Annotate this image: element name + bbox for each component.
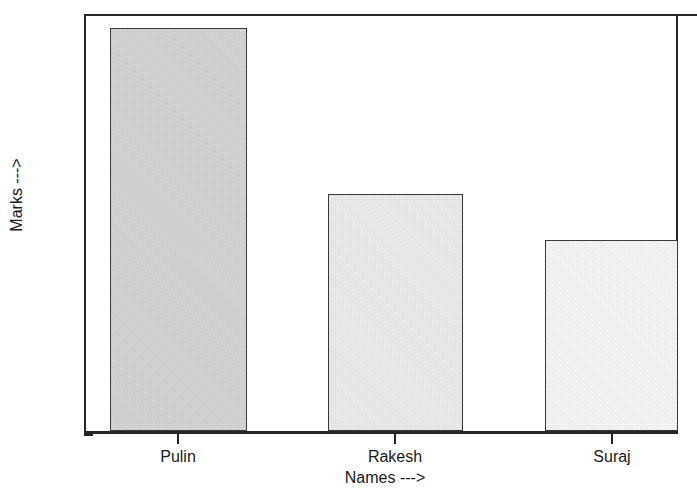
x-tick-label-suraj: Suraj — [532, 449, 692, 465]
bar-texture — [546, 241, 677, 430]
x-tick-label-pulin: Pulin — [98, 449, 258, 465]
top-spine-extension — [676, 14, 697, 16]
x-tick-suraj — [611, 434, 613, 444]
plot-area — [84, 14, 678, 434]
bar-chart-figure: 100 80 60 40 20 0 Pulin Rakesh Suraj Nam… — [0, 0, 697, 494]
x-tick-rakesh — [394, 434, 396, 444]
bar-pulin — [110, 28, 247, 431]
bar-rakesh — [328, 194, 463, 431]
bar-suraj — [545, 240, 678, 431]
bar-texture — [329, 195, 462, 430]
x-tick-label-rakesh: Rakesh — [315, 449, 475, 465]
x-axis-title: Names ---> — [285, 470, 485, 486]
y-axis-title: Marks ---> — [9, 125, 25, 265]
bar-texture — [111, 29, 246, 430]
y-tick-0 — [84, 434, 93, 436]
x-tick-pulin — [177, 434, 179, 444]
